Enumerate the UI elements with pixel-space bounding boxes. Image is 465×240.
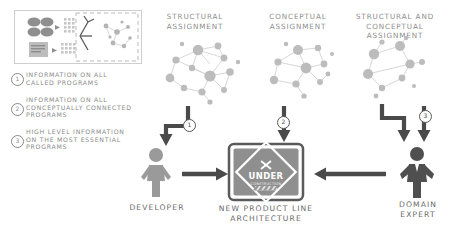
legend-badge-3: 3 <box>11 135 24 148</box>
blob-cluster-icon <box>28 17 54 36</box>
legend-item-1: 1 INFORMATION ON ALL CALLED PROGRAMS <box>10 70 142 90</box>
sign-line-1: UNDER <box>249 171 284 181</box>
column-header-structural: STRUCTURAL ASSIGNMENT <box>155 12 235 31</box>
matrix-grid-icon <box>61 18 76 54</box>
arrow-expert-to-architecture <box>312 166 386 182</box>
arrow-marker-1: 1 <box>183 119 196 132</box>
column-header-conceptual: CONCEPTUAL ASSIGNMENT <box>258 12 338 31</box>
mini-network-icon <box>104 20 132 48</box>
diagram-canvas: 1 INFORMATION ON ALL CALLED PROGRAMS 2 I… <box>0 0 465 240</box>
arrow-combined-to-expert <box>372 100 448 148</box>
hazard-stripes-icon <box>253 186 278 190</box>
legend-badge-2: 2 <box>11 103 24 116</box>
arrow-marker-2: 2 <box>277 116 290 129</box>
document-icon <box>29 42 48 57</box>
pipeline-arrow-icon <box>52 25 60 53</box>
legend-badge-1: 1 <box>11 73 24 86</box>
graph-structural-conceptual <box>352 34 446 104</box>
sign-line-2: CONSTRUCTION <box>251 182 282 186</box>
legend-text-1: INFORMATION ON ALL CALLED PROGRAMS <box>26 71 142 86</box>
under-construction-sign: UNDER CONSTRUCTION <box>228 143 304 201</box>
domain-expert-label: DOMAIN EXPERT <box>388 200 448 219</box>
architecture-label: NEW PRODUCT LINE ARCHITECTURE <box>211 204 321 223</box>
input-pipeline-box <box>14 10 142 64</box>
connector-fan-icon <box>80 16 94 50</box>
graph-structural <box>162 34 254 110</box>
domain-expert-figure-icon <box>398 146 436 200</box>
arrow-developer-to-architecture <box>182 166 230 182</box>
developer-label: DEVELOPER <box>118 203 196 213</box>
arrow-marker-3: 3 <box>419 110 432 123</box>
developer-figure-icon <box>138 147 174 199</box>
graph-conceptual <box>266 34 348 106</box>
